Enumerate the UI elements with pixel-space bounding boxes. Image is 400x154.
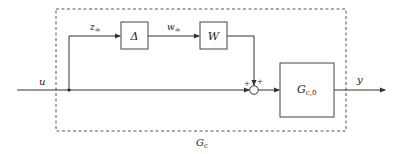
block-diagram: u z∞ Δ w∞ W + + Gc,0 y Gc <box>0 0 400 154</box>
w-output-line <box>227 36 254 85</box>
outer-system-label: Gc <box>196 137 208 150</box>
sum-sign-left: + <box>244 80 250 88</box>
w-block-label: W <box>208 30 221 43</box>
input-label-u: u <box>39 76 45 87</box>
z-signal-line <box>69 36 120 90</box>
sum-sign-top: + <box>257 78 263 86</box>
delta-block-label: Δ <box>130 30 139 43</box>
output-label-y: y <box>356 74 363 85</box>
w-label: w∞ <box>167 22 181 34</box>
z-label: z∞ <box>89 22 101 34</box>
summing-junction <box>250 86 259 95</box>
